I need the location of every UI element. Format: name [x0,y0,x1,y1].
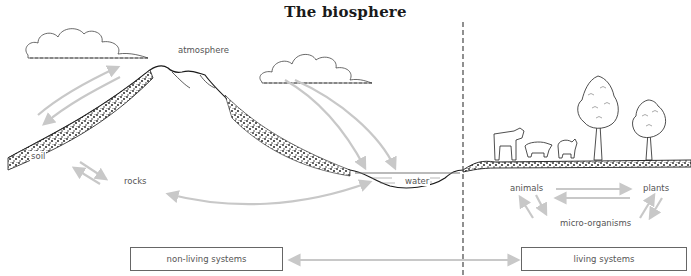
label-plants: plants [643,183,669,193]
biosphere-illustration [0,0,691,276]
arrow-plants-to-micro [650,198,662,218]
label-soil: soil [30,151,46,161]
sheep-icon [558,139,577,158]
living-systems-label: living systems [574,254,635,264]
cow-icon [494,128,524,160]
label-micro-organisms: micro-organisms [560,218,631,228]
cloud-left-icon [26,29,148,58]
arrow-animals-to-micro [536,195,546,214]
tree-large-icon [578,76,619,160]
label-animals: animals [510,183,543,193]
non-living-systems-label: non-living systems [167,254,247,264]
living-systems-box: living systems [521,247,687,271]
pig-icon [525,142,552,157]
cloud-right-icon [260,54,372,83]
arrow-rocks-to-soil [74,168,100,184]
arrow-micro-to-animals [520,197,533,218]
label-water: water [404,176,430,186]
label-rocks: rocks [124,176,147,186]
tree-small-icon [633,100,666,160]
arrow-rocks-water [168,182,370,204]
label-atmosphere: atmosphere [178,45,229,55]
living-ground [463,160,691,172]
non-living-systems-box: non-living systems [130,247,283,271]
arrow-soil-to-rocks [80,162,106,179]
